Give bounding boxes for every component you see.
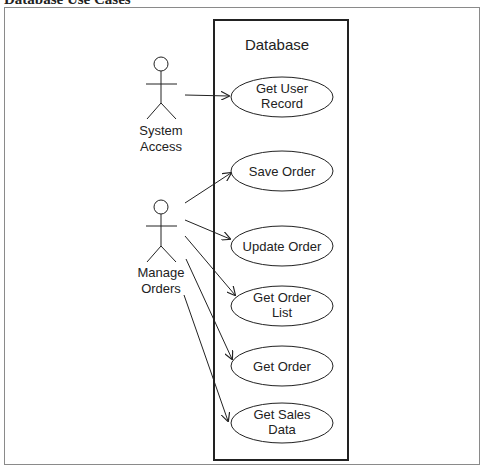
use-case-save-order[interactable]: Save Order: [231, 151, 333, 191]
use-case-get-order-list[interactable]: Get Order List: [231, 286, 333, 326]
use-case-update-order[interactable]: Update Order: [231, 226, 333, 266]
svg-text:Data: Data: [268, 422, 296, 437]
association-line: [184, 295, 228, 421]
svg-text:Get Order: Get Order: [253, 359, 311, 374]
svg-text:List: List: [272, 305, 293, 320]
actor-label: System: [139, 123, 182, 138]
actor-label: Orders: [141, 281, 181, 296]
association-line: [185, 236, 235, 295]
use-case-get-user-record[interactable]: Get User Record: [231, 77, 333, 117]
svg-text:Get User: Get User: [256, 81, 309, 96]
svg-text:Save Order: Save Order: [249, 164, 316, 179]
association-line: [185, 220, 230, 239]
association-line: [185, 173, 231, 203]
use-case-get-sales-data[interactable]: Get Sales Data: [231, 403, 333, 443]
system-label: Database: [245, 36, 309, 53]
svg-text:Get Sales: Get Sales: [253, 407, 311, 422]
actor-manage-orders[interactable]: [146, 200, 177, 262]
association-line: [186, 259, 232, 359]
actor-system-access[interactable]: [146, 57, 177, 119]
actor-label: Manage: [138, 265, 185, 280]
svg-text:Get Order: Get Order: [253, 290, 311, 305]
use-case-get-order[interactable]: Get Order: [231, 346, 333, 386]
association-line: [185, 95, 229, 96]
svg-text:Update Order: Update Order: [243, 239, 322, 254]
svg-text:Record: Record: [261, 96, 303, 111]
use-case-diagram: Database System Access Manage Orders Get…: [0, 0, 486, 473]
actor-label: Access: [140, 139, 182, 154]
